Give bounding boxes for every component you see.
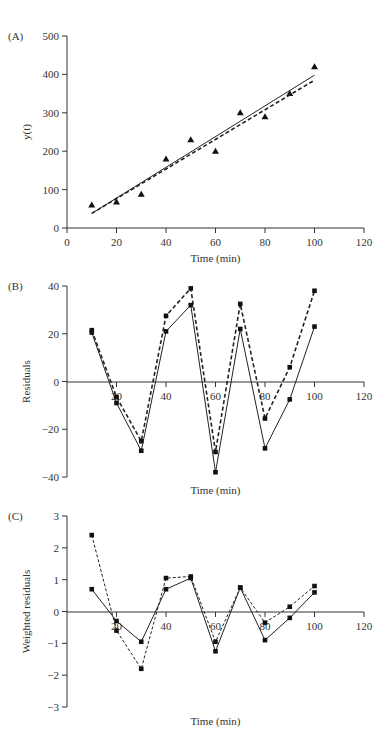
y-axis-title: Residuals — [20, 360, 32, 403]
y-tick-label: 0 — [54, 376, 60, 388]
x-tick-label: 100 — [306, 390, 323, 402]
x-tick-label: 120 — [356, 620, 373, 632]
data-point-triangle — [237, 109, 244, 115]
data-point-square — [287, 616, 292, 621]
data-point-square — [263, 638, 268, 643]
data-point-triangle — [138, 191, 145, 197]
x-axis-title: Time (min) — [190, 715, 240, 728]
data-point-square — [312, 584, 317, 589]
data-point-square — [89, 533, 94, 538]
data-point-square — [188, 286, 193, 291]
data-point-square — [139, 667, 144, 672]
y-tick-label: −20 — [42, 423, 60, 435]
data-point-square — [164, 576, 169, 581]
data-point-square — [312, 590, 317, 595]
y-tick-label: −2 — [47, 669, 59, 681]
x-tick-label: 120 — [356, 236, 373, 248]
panel-a-fitted-data: 0100200300400500020406080100120(A)Time (… — [8, 30, 373, 265]
y-tick-label: 40 — [48, 280, 60, 292]
data-point-square — [238, 585, 243, 590]
y-tick-label: 500 — [43, 30, 60, 42]
panel-c-weighted-residuals: −3−2−1012320406080100120(C)Time (min)Wei… — [8, 510, 373, 728]
x-tick-label: 80 — [260, 390, 272, 402]
data-point-square — [114, 401, 119, 406]
data-point-triangle — [187, 136, 194, 142]
series-solid-line — [92, 578, 315, 651]
data-point-square — [213, 450, 218, 455]
x-axis-title: Time (min) — [190, 252, 240, 265]
series-dashed-line — [92, 535, 315, 669]
data-point-square — [164, 314, 169, 319]
x-tick-label: 80 — [260, 236, 272, 248]
x-tick-label: 40 — [161, 620, 173, 632]
data-point-square — [139, 439, 144, 444]
data-point-square — [213, 639, 218, 644]
panel-label: (B) — [8, 280, 23, 293]
x-tick-label: 40 — [161, 236, 173, 248]
y-tick-label: 1 — [54, 574, 60, 586]
x-tick-label: 60 — [210, 236, 222, 248]
data-point-square — [213, 649, 218, 654]
y-tick-label: 2 — [54, 542, 60, 554]
x-tick-label: 20 — [111, 236, 123, 248]
data-point-square — [114, 628, 119, 633]
x-tick-label: 60 — [210, 390, 222, 402]
y-tick-label: 400 — [43, 68, 60, 80]
y-axis-title: y(t) — [20, 124, 33, 140]
x-tick-label: 0 — [64, 236, 70, 248]
data-point-square — [263, 446, 268, 451]
y-tick-label: 100 — [43, 184, 60, 196]
data-point-triangle — [88, 201, 95, 207]
data-point-square — [114, 395, 119, 400]
data-point-square — [139, 639, 144, 644]
y-axis-title: Weighted residuals — [20, 570, 32, 654]
data-point-square — [164, 587, 169, 592]
y-tick-label: −3 — [47, 701, 59, 713]
data-point-square — [263, 416, 268, 421]
data-point-square — [238, 302, 243, 307]
data-point-square — [287, 397, 292, 402]
x-tick-label: 60 — [210, 620, 222, 632]
data-point-triangle — [311, 63, 318, 69]
x-tick-label: 120 — [356, 390, 373, 402]
y-tick-label: −40 — [42, 471, 60, 483]
data-point-square — [287, 365, 292, 370]
data-point-triangle — [212, 148, 219, 154]
data-point-square — [139, 448, 144, 453]
x-tick-label: 40 — [161, 390, 173, 402]
data-point-square — [89, 328, 94, 333]
x-tick-label: 100 — [306, 620, 323, 632]
y-tick-label: 20 — [48, 328, 60, 340]
data-point-square — [164, 329, 169, 334]
y-tick-label: 200 — [43, 145, 60, 157]
data-point-square — [238, 327, 243, 332]
y-tick-label: 0 — [54, 222, 60, 234]
data-point-square — [287, 604, 292, 609]
series-solid-line — [92, 305, 315, 472]
data-point-square — [263, 620, 268, 625]
data-point-square — [312, 324, 317, 329]
y-tick-label: 3 — [54, 510, 60, 522]
data-point-square — [213, 470, 218, 475]
panel-label: (A) — [8, 30, 24, 43]
series-dashed-line — [92, 288, 315, 452]
figure: 0100200300400500020406080100120(A)Time (… — [0, 0, 392, 736]
data-point-triangle — [262, 113, 269, 119]
data-point-square — [188, 574, 193, 579]
series-dashed-line — [92, 80, 315, 213]
y-tick-label: 0 — [54, 606, 60, 618]
data-point-square — [89, 587, 94, 592]
x-axis-title: Time (min) — [190, 484, 240, 497]
data-point-square — [312, 288, 317, 293]
x-tick-label: 100 — [306, 236, 323, 248]
y-tick-label: −1 — [47, 637, 59, 649]
panel-label: (C) — [8, 510, 23, 523]
data-point-triangle — [163, 155, 170, 161]
panel-b-residuals: −40−200204020406080100120(B)Time (min)Re… — [8, 280, 373, 497]
y-tick-label: 300 — [43, 107, 60, 119]
